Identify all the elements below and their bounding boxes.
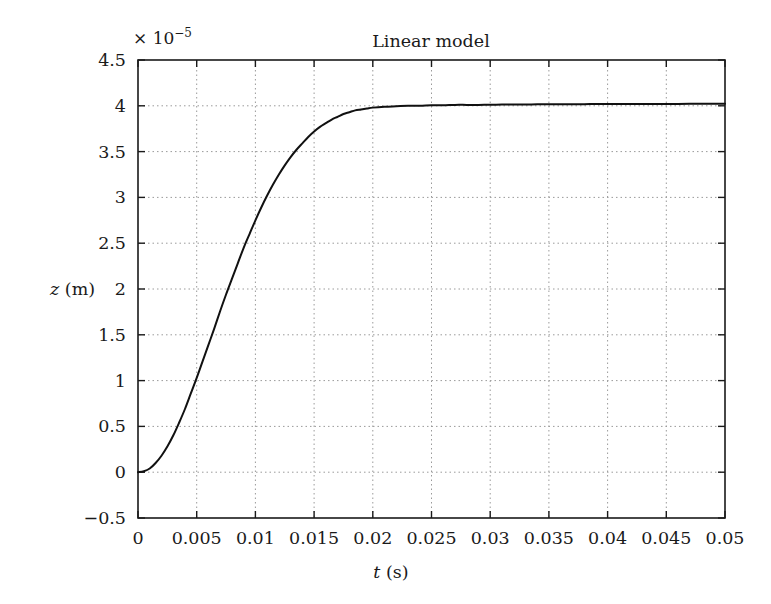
- x-tick-label-5: 0.025: [406, 528, 456, 548]
- y-tick-label-6: 2.5: [98, 233, 126, 253]
- x-tick-label-7: 0.035: [524, 528, 574, 548]
- y-tick-label-9: 4: [115, 96, 126, 116]
- x-tick-label-2: 0.01: [236, 528, 275, 548]
- y-tick-label-0: −0.5: [84, 508, 127, 528]
- y-axis-exponent-prefix: × 10: [133, 28, 174, 48]
- y-tick-label-5: 2: [115, 279, 126, 299]
- x-tick-label-10: 0.05: [706, 528, 745, 548]
- y-tick-label-1: 0: [115, 462, 126, 482]
- chart-svg: 00.0050.010.0150.020.0250.030.0350.040.0…: [0, 0, 771, 604]
- x-tick-label-6: 0.03: [471, 528, 510, 548]
- y-axis-title-unit: (m): [65, 279, 95, 299]
- x-tick-label-9: 0.045: [641, 528, 691, 548]
- x-tick-label-0: 0: [132, 528, 143, 548]
- x-tick-label-4: 0.02: [353, 528, 392, 548]
- y-axis-title: z (m): [49, 279, 95, 299]
- x-tick-label-8: 0.04: [588, 528, 627, 548]
- y-axis-exponent-value: −5: [174, 26, 192, 40]
- y-tick-label-2: 0.5: [98, 416, 126, 436]
- y-tick-label-4: 1.5: [98, 325, 126, 345]
- x-tick-label-1: 0.005: [172, 528, 222, 548]
- y-tick-label-10: 4.5: [98, 50, 126, 70]
- chart-title: Linear model: [372, 31, 490, 51]
- x-axis-title: t (s): [373, 562, 408, 582]
- y-tick-label-3: 1: [115, 371, 126, 391]
- x-axis-title-unit: (s): [386, 562, 409, 582]
- y-tick-label-8: 3.5: [98, 142, 126, 162]
- x-tick-label-3: 0.015: [289, 528, 339, 548]
- y-tick-label-7: 3: [115, 187, 126, 207]
- figure-canvas: 00.0050.010.0150.020.0250.030.0350.040.0…: [0, 0, 771, 604]
